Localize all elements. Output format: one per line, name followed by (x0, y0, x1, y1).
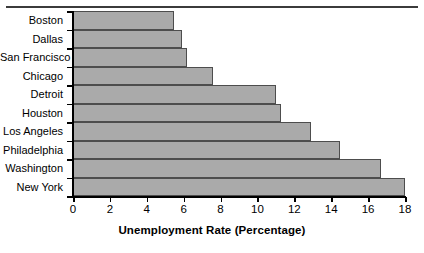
y-axis-tick (67, 122, 73, 124)
x-axis-line (72, 196, 406, 198)
bar-row (73, 48, 405, 67)
plot-area (73, 11, 405, 196)
x-axis-tick (110, 197, 112, 202)
bar-row (73, 122, 405, 141)
x-axis-tick-label: 14 (318, 203, 344, 215)
y-axis-tick (67, 30, 73, 32)
bar-boston (73, 11, 174, 30)
category-label: Detroit (0, 85, 68, 104)
bar-houston (73, 104, 281, 123)
bar-row (73, 67, 405, 86)
category-axis-labels: BostonDallasSan FranciscoChicagoDetroitH… (0, 11, 68, 196)
y-axis-tick (67, 11, 73, 13)
bar-row (73, 141, 405, 160)
x-axis-tick (221, 197, 223, 202)
x-axis-tick-label: 16 (355, 203, 381, 215)
category-label: Los Angeles (0, 122, 68, 141)
top-divider-rule (6, 6, 418, 8)
x-axis-tick-label: 18 (392, 203, 418, 215)
bar-row (73, 178, 405, 197)
bar-new-york (73, 178, 405, 197)
category-label: San Francisco (0, 48, 68, 67)
x-axis-tick (368, 197, 370, 202)
bar-san-francisco (73, 48, 187, 67)
x-axis-tick (405, 197, 407, 202)
bar-philadelphia (73, 141, 340, 160)
bar-row (73, 85, 405, 104)
bar-row (73, 159, 405, 178)
bar-row (73, 30, 405, 49)
y-axis-tick (67, 178, 73, 180)
y-axis-tick (67, 48, 73, 50)
category-label: Philadelphia (0, 141, 68, 160)
x-axis-tick (184, 197, 186, 202)
x-axis-tick-label: 4 (134, 203, 160, 215)
category-label: Washington (0, 159, 68, 178)
bar-washington (73, 159, 381, 178)
bar-dallas (73, 30, 182, 49)
x-axis-tick (147, 197, 149, 202)
x-axis-tick (331, 197, 333, 202)
x-axis-tick-label: 0 (60, 203, 86, 215)
x-axis-tick-label: 8 (208, 203, 234, 215)
bar-los-angeles (73, 122, 311, 141)
y-axis-tick (67, 196, 73, 198)
y-axis-tick (67, 85, 73, 87)
bar-row (73, 104, 405, 123)
x-axis-tick (294, 197, 296, 202)
category-label: Dallas (0, 30, 68, 49)
x-axis-tick-label: 10 (244, 203, 270, 215)
y-axis-tick (67, 104, 73, 106)
x-axis-tick-label: 2 (97, 203, 123, 215)
y-axis-tick (67, 67, 73, 69)
x-axis-tick (257, 197, 259, 202)
x-axis-tick (73, 197, 75, 202)
category-label: Houston (0, 104, 68, 123)
bar-chicago (73, 67, 213, 86)
x-axis-tick-label: 6 (171, 203, 197, 215)
x-axis-tick-label: 12 (281, 203, 307, 215)
bar-row (73, 11, 405, 30)
bar-detroit (73, 85, 276, 104)
category-label: Boston (0, 11, 68, 30)
y-axis-tick (67, 141, 73, 143)
category-label: Chicago (0, 67, 68, 86)
unemployment-rate-bar-chart: BostonDallasSan FranciscoChicagoDetroitH… (0, 0, 424, 253)
category-label: New York (0, 178, 68, 197)
x-axis-title: Unemployment Rate (Percentage) (0, 224, 424, 236)
y-axis-tick (67, 159, 73, 161)
